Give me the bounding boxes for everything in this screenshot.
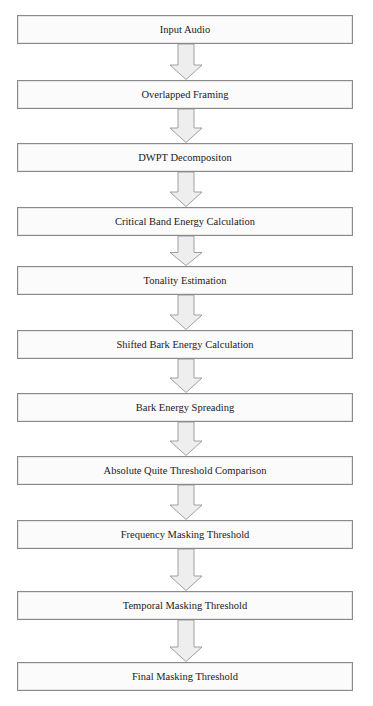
- step-box: Overlapped Framing: [17, 80, 353, 109]
- step-label: Input Audio: [160, 24, 210, 35]
- step-box: Temporal Masking Threshold: [17, 591, 353, 620]
- step-label: DWPT Decompositon: [138, 152, 231, 163]
- step-box: Critical Band Energy Calculation: [17, 207, 353, 236]
- step-label: Final Masking Threshold: [132, 671, 238, 682]
- step-label: Absolute Quite Threshold Comparison: [104, 465, 267, 476]
- step-box: Tonality Estimation: [17, 266, 353, 295]
- down-arrow-icon: [169, 172, 203, 207]
- step-box: Final Masking Threshold: [17, 662, 353, 691]
- step-box: Shifted Bark Energy Calculation: [17, 330, 353, 359]
- down-arrow-icon: [169, 109, 203, 143]
- step-label: Shifted Bark Energy Calculation: [116, 339, 253, 350]
- down-arrow-icon: [169, 422, 203, 456]
- down-arrow-icon: [169, 620, 203, 662]
- down-arrow-icon: [169, 44, 203, 80]
- down-arrow-icon: [169, 236, 203, 266]
- step-box: Bark Energy Spreading: [17, 393, 353, 422]
- down-arrow-icon: [169, 485, 203, 520]
- step-box: Absolute Quite Threshold Comparison: [17, 456, 353, 485]
- step-label: Critical Band Energy Calculation: [115, 216, 255, 227]
- down-arrow-icon: [169, 295, 203, 330]
- step-label: Temporal Masking Threshold: [123, 600, 247, 611]
- step-label: Frequency Masking Threshold: [121, 529, 250, 540]
- down-arrow-icon: [169, 549, 203, 591]
- step-box: DWPT Decompositon: [17, 143, 353, 172]
- step-label: Bark Energy Spreading: [136, 402, 234, 413]
- step-label: Overlapped Framing: [141, 89, 228, 100]
- down-arrow-icon: [169, 359, 203, 393]
- step-box: Frequency Masking Threshold: [17, 520, 353, 549]
- step-label: Tonality Estimation: [144, 275, 227, 286]
- step-box: Input Audio: [17, 15, 353, 44]
